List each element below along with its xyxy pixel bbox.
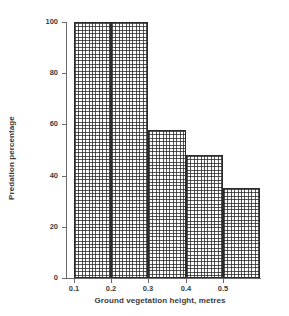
x-tick-label: 0.4 [171, 285, 201, 293]
y-axis-title: Predation percentage [0, 0, 22, 316]
y-tick-mark [62, 278, 67, 279]
y-tick-mark [62, 176, 67, 177]
x-tick-mark [111, 279, 112, 283]
bar [74, 22, 111, 278]
x-tick-mark [186, 279, 187, 283]
bar [111, 22, 148, 278]
x-tick-label: 0.2 [96, 285, 126, 293]
y-tick-mark [62, 73, 67, 74]
x-tick-mark [148, 279, 149, 283]
y-tick-label: 40 [18, 172, 58, 180]
y-axis-line [66, 22, 67, 279]
x-axis-line [66, 278, 261, 279]
y-tick-label: 60 [18, 120, 58, 128]
y-tick-label: 80 [18, 69, 58, 77]
x-tick-label: 0.5 [208, 285, 238, 293]
x-tick-label: 0.3 [133, 285, 163, 293]
y-tick-label: 20 [18, 223, 58, 231]
histogram-chart: Predation percentage 020406080100 0.10.2… [0, 0, 289, 316]
y-tick-mark [62, 22, 67, 23]
x-tick-label: 0.1 [59, 285, 89, 293]
bar [186, 155, 223, 278]
x-tick-mark [74, 279, 75, 283]
bar [223, 188, 260, 278]
bar [148, 130, 185, 278]
plot-area [74, 22, 260, 278]
x-axis-title: Ground vegetation height, metres [40, 296, 280, 305]
y-tick-label: 0 [18, 274, 58, 282]
y-tick-mark [62, 227, 67, 228]
y-tick-mark [62, 124, 67, 125]
x-tick-mark [223, 279, 224, 283]
y-tick-label: 100 [18, 18, 58, 26]
